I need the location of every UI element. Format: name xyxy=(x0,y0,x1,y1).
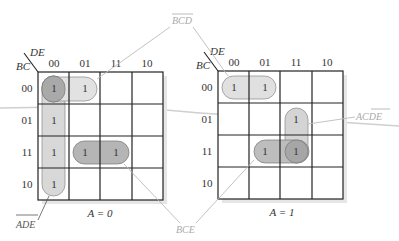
cell-value: 1 xyxy=(82,146,88,158)
col-header: 01 xyxy=(260,56,271,68)
row-header: 00 xyxy=(202,81,214,93)
cell-value: 1 xyxy=(293,113,299,125)
col-header: 10 xyxy=(142,57,154,69)
cell-value: 1 xyxy=(51,146,57,158)
row-header: 11 xyxy=(202,145,213,157)
row-header: 01 xyxy=(202,113,213,125)
term-label-bce: BCE xyxy=(176,224,195,235)
row-header: 01 xyxy=(22,114,33,126)
cell-value: 1 xyxy=(51,178,57,190)
kmap-a0: DE BC 00 01 11 10 00 01 11 10 1 1 1 1 1 … xyxy=(16,46,167,219)
col-header: 11 xyxy=(291,56,302,68)
cell-value: 1 xyxy=(51,114,57,126)
row-header: 10 xyxy=(202,177,214,189)
term-label-ade: ADE xyxy=(15,219,35,230)
row-header: 10 xyxy=(22,178,34,190)
cell-value: 1 xyxy=(51,82,57,94)
cell-value: 1 xyxy=(82,82,88,94)
col-header: 10 xyxy=(322,56,334,68)
map-caption: A = 0 xyxy=(87,207,113,219)
map-caption: A = 1 xyxy=(269,206,295,218)
term-label-acde: ACDE xyxy=(355,111,382,122)
cell-value: 1 xyxy=(231,81,237,93)
col-header: 00 xyxy=(229,56,241,68)
col-header: 00 xyxy=(49,57,61,69)
col-var-label: DE xyxy=(29,46,45,58)
cell-value: 1 xyxy=(293,145,299,157)
col-header: 01 xyxy=(80,57,91,69)
row-var-label: BC xyxy=(196,59,211,71)
cell-value: 1 xyxy=(113,146,119,158)
col-var-label: DE xyxy=(209,45,225,57)
cell-value: 1 xyxy=(262,145,268,157)
kmap-a1: DE BC 00 01 11 10 00 01 11 10 1 1 1 1 1 … xyxy=(196,45,347,218)
row-var-label: BC xyxy=(16,60,31,72)
cell-value: 1 xyxy=(262,81,268,93)
leader-line-bcd-left xyxy=(97,27,170,79)
term-label-bcd: BCD xyxy=(172,15,193,26)
row-header: 00 xyxy=(22,82,34,94)
karnaugh-map-diagram: DE BC 00 01 11 10 00 01 11 10 1 1 1 1 1 … xyxy=(0,0,399,241)
row-header: 11 xyxy=(22,146,33,158)
